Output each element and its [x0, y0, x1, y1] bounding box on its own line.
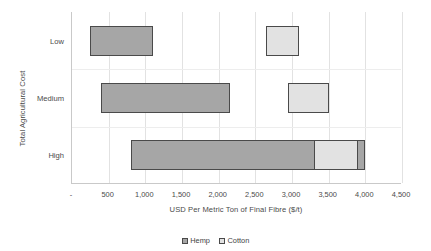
plot-area [71, 12, 401, 184]
x-axis-tick-6: 3,000 [282, 190, 301, 199]
gridline-horizontal [72, 127, 401, 128]
legend-label-hemp: Hemp [190, 236, 210, 245]
y-axis-label-medium: Medium [6, 94, 64, 103]
chart-legend: HempCotton [0, 236, 431, 245]
x-axis-tick-0: - [70, 190, 72, 199]
legend-swatch-hemp-icon [182, 238, 188, 244]
chart-container: Total Agricultural Cost LowMediumHigh -5… [0, 0, 431, 251]
x-axis-tick-2: 1,000 [135, 190, 154, 199]
y-axis-label-low: Low [6, 36, 64, 45]
x-axis-title: USD Per Metric Ton of Final Fibre ($/t) [71, 205, 401, 214]
bar-hemp-medium [101, 83, 229, 113]
bar-cotton-medium [288, 83, 328, 113]
gridline-horizontal [72, 69, 401, 70]
y-axis-label-high: High [6, 151, 64, 160]
x-axis-tick-8: 4,000 [355, 190, 374, 199]
bar-hemp-low [90, 26, 152, 56]
bar-cotton-low [266, 26, 299, 56]
x-axis-tick-1: 500 [101, 190, 113, 199]
x-axis-tick-4: 2,000 [208, 190, 227, 199]
legend-item-cotton[interactable]: Cotton [219, 236, 249, 245]
x-axis-tick-5: 2,500 [245, 190, 264, 199]
legend-item-hemp[interactable]: Hemp [182, 236, 210, 245]
y-axis-title: Total Agricultural Cost [18, 34, 27, 184]
x-axis-tick-9: 4,500 [392, 190, 411, 199]
bar-cotton-high [314, 140, 358, 170]
x-axis-tick-7: 3,500 [318, 190, 337, 199]
legend-swatch-cotton-icon [219, 238, 225, 244]
gridline-vertical [365, 12, 366, 183]
gridline-vertical [402, 12, 403, 183]
x-axis-tick-3: 1,500 [172, 190, 191, 199]
legend-label-cotton: Cotton [227, 236, 249, 245]
